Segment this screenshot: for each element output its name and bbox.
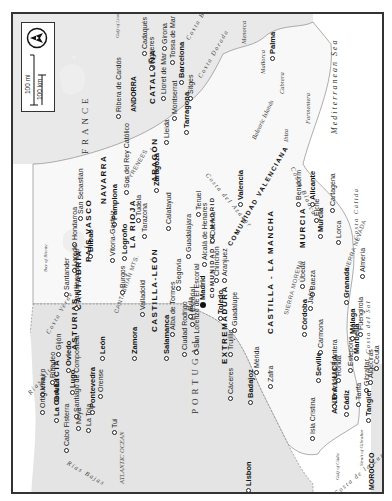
city-marker-icon — [164, 140, 169, 145]
city-label: Hondarroa — [71, 207, 78, 240]
city-marker-icon — [120, 290, 125, 295]
city-label: Logroño — [121, 224, 129, 254]
city-marker-icon — [86, 428, 91, 433]
city-marker-icon — [300, 284, 305, 289]
city-marker-icon — [162, 46, 167, 51]
city-label: Palma — [269, 32, 277, 54]
region-navarra: NAVARRA — [100, 155, 108, 204]
city-marker-icon — [296, 202, 301, 207]
city-marker-icon — [356, 402, 361, 407]
capital-marker-icon — [200, 302, 206, 308]
island-formentera: Formentera — [305, 93, 312, 124]
city-label: Trujillo — [227, 330, 234, 350]
city-label: Lloret de Mar — [160, 53, 167, 94]
city-marker-icon — [64, 448, 69, 453]
city-label: Cádiz — [343, 390, 351, 410]
city-marker-icon — [170, 60, 175, 65]
city-label: Toledo — [217, 290, 225, 314]
city-label: Cabo Fisterra — [63, 404, 70, 446]
city-marker-icon — [218, 316, 223, 321]
city-label: Badajoz — [247, 369, 255, 398]
city-marker-icon — [116, 114, 121, 119]
sea-atlantic: ATLANTIC OCEAN — [119, 432, 126, 484]
city-label: Figueres — [148, 37, 155, 64]
city-marker-icon — [142, 234, 147, 239]
sea-cadiz: Gulf of Cádiz — [335, 453, 340, 480]
city-marker-icon — [194, 350, 199, 355]
city-marker-icon — [222, 278, 227, 283]
city-label: Benidorm — [295, 170, 302, 200]
city-marker-icon — [161, 96, 166, 101]
island-menorca: Menorca — [241, 21, 248, 44]
city-label: Zafra — [267, 366, 274, 382]
city-marker-icon — [368, 380, 373, 385]
city-label: León — [99, 336, 107, 354]
city-marker-icon — [110, 258, 115, 263]
city-label: Úbeda — [299, 261, 306, 282]
city-label: San Lorenzo de El Escorial — [193, 264, 200, 348]
city-label: Seville — [315, 352, 323, 376]
city-label: Montserrat — [171, 81, 178, 114]
country-andorra: ANDORRA — [130, 76, 137, 112]
city-marker-icon — [336, 240, 341, 245]
city-label: Vitoria-Gasteiz — [109, 210, 116, 256]
city-label: Baeza — [309, 270, 316, 290]
city-marker-icon — [78, 216, 83, 221]
city-label: La Coruña — [53, 379, 61, 416]
city-label: Tarazona — [141, 203, 148, 232]
city-marker-icon — [348, 368, 353, 373]
city-label: Guadalupe — [231, 292, 238, 326]
city-label: Ceuta — [373, 345, 380, 364]
city-marker-icon — [358, 332, 363, 337]
island-mallorca: Mallorca — [260, 50, 267, 74]
city-marker-icon — [344, 412, 349, 417]
city-label: Lisbon — [245, 461, 253, 486]
city-label: Granada — [343, 268, 351, 298]
city-marker-icon — [374, 366, 379, 371]
country-france: FRANCE — [81, 94, 90, 154]
city-marker-icon — [196, 212, 201, 217]
region-castilla-la-mancha: CASTILLA - LA MANCHA — [267, 209, 275, 334]
city-label: Gijón — [55, 334, 62, 350]
city-marker-icon — [172, 116, 177, 121]
city-marker-icon — [164, 356, 169, 361]
city-label: Almería — [359, 248, 366, 272]
city-marker-icon — [132, 356, 137, 361]
city-label: Madrid — [199, 275, 207, 300]
city-marker-icon — [182, 352, 187, 357]
city-marker-icon — [54, 418, 59, 423]
coast-calida: Costa Cálida — [353, 188, 360, 241]
city-marker-icon — [344, 300, 349, 305]
city-label: Ribadeo — [49, 352, 56, 378]
city-label: Carmona — [317, 319, 324, 348]
island-cabrera: Cabrera — [279, 72, 286, 94]
city-marker-icon — [228, 352, 233, 357]
coast-sol: Costa del Sol — [365, 300, 372, 354]
city-marker-icon — [366, 418, 371, 423]
city-marker-icon — [228, 396, 233, 401]
city-marker-icon — [202, 262, 207, 267]
city-marker-icon — [310, 436, 315, 441]
island-ibiza: Ibiza — [283, 129, 290, 142]
city-marker-icon — [318, 234, 323, 239]
city-marker-icon — [316, 378, 321, 383]
city-marker-icon — [246, 488, 251, 493]
city-label: Santiago de Compostela — [73, 335, 80, 412]
city-marker-icon — [302, 332, 307, 337]
scale-mi-label: 100 mi — [25, 74, 32, 94]
city-marker-icon — [184, 130, 189, 135]
city-marker-icon — [90, 410, 95, 415]
sea-biscay: Bay of Biscay — [43, 245, 48, 273]
city-marker-icon — [248, 400, 253, 405]
region-castilla-leon: CASTILLA-LEÓN — [151, 248, 159, 332]
city-label: Cadaqués — [141, 17, 148, 49]
city-label: Tangier — [365, 389, 373, 416]
city-label: Alcalá de Henares — [201, 203, 208, 260]
city-marker-icon — [354, 356, 359, 361]
city-label: Zamora — [131, 327, 139, 354]
city-label: Sos del Rey Católico — [123, 123, 130, 188]
city-label: Málaga — [349, 309, 357, 334]
city-marker-icon — [142, 51, 147, 56]
city-label: Tui — [111, 419, 118, 428]
city-marker-icon — [179, 80, 184, 85]
